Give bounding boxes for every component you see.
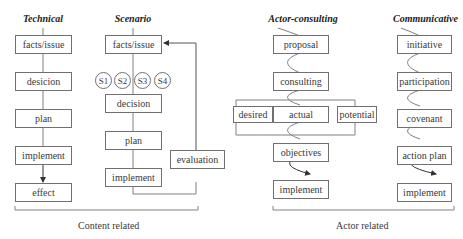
actor-potential-box: potential [337,106,377,123]
actor-objectives-box: objectives [273,143,329,162]
actor-consulting-box: consulting [273,72,329,91]
technical-implement-box: implement [15,146,72,165]
scenario-facts-issue-box: facts/issue [105,35,162,54]
technical-plan-box: plan [15,109,72,128]
scenario-s2-circle: S2 [114,72,131,89]
communicative-action-plan-box: action plan [397,146,452,165]
scenario-title: Scenario [103,13,163,24]
communicative-covenant-box: covenant [397,109,452,128]
actor-proposal-box: proposal [273,35,329,54]
scenario-evaluation-box: evaluation [170,150,225,169]
technical-effect-box: effect [15,183,72,202]
scenario-plan-box: plan [105,131,162,150]
scenario-decision-box: decision [105,94,162,113]
actor-consulting-title: Actor-consulting [268,13,338,24]
communicative-implement-box: implement [397,183,452,202]
scenario-s4-circle: S4 [154,72,171,89]
communicative-participation-box: participation [397,72,452,91]
actor-implement-box: implement [273,180,329,199]
actor-desired-box: desired [233,106,273,123]
scenario-s1-circle: S1 [95,72,112,89]
scenario-implement-box: implement [105,168,162,187]
scenario-s3-circle: S3 [134,72,151,89]
communicative-initiative-box: initiative [397,35,452,54]
content-related-label: Content related [78,220,139,231]
actor-related-label: Actor related [336,220,388,231]
actor-actual-box: actual [273,106,329,123]
technical-decision-box: desicion [15,72,72,91]
technical-title: Technical [13,13,73,24]
communicative-title: Communicative [393,13,453,24]
technical-facts-issue-box: facts/issue [15,35,72,54]
